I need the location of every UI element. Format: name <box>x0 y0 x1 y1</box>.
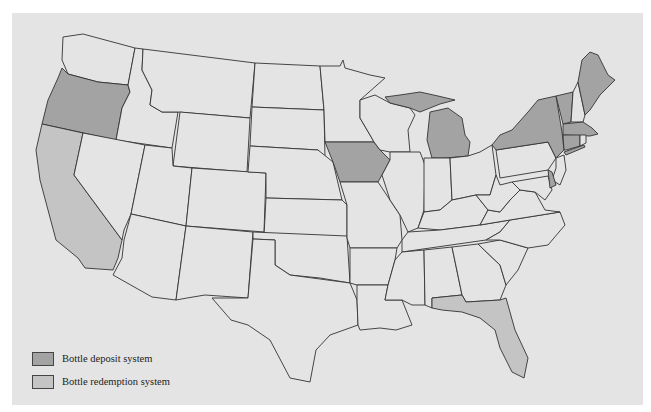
state-massachusetts[interactable] <box>563 122 598 136</box>
state-north-dakota[interactable] <box>252 63 324 110</box>
state-new-mexico[interactable] <box>176 226 253 300</box>
state-rhode-island[interactable] <box>580 135 586 146</box>
state-kansas[interactable] <box>264 198 347 238</box>
legend: Bottle deposit system Bottle redemption … <box>32 347 170 393</box>
redemption-swatch <box>32 375 54 389</box>
legend-item-deposit: Bottle deposit system <box>32 347 170 370</box>
state-maine[interactable] <box>578 52 615 115</box>
legend-item-redemption: Bottle redemption system <box>32 370 170 393</box>
state-florida[interactable] <box>432 295 528 378</box>
legend-label: Bottle deposit system <box>62 353 152 364</box>
state-colorado[interactable] <box>186 168 266 232</box>
legend-label: Bottle redemption system <box>62 376 170 387</box>
state-michigan-lower[interactable] <box>427 108 470 158</box>
state-wyoming[interactable] <box>173 112 250 172</box>
state-montana[interactable] <box>142 49 255 118</box>
deposit-swatch <box>32 352 54 366</box>
